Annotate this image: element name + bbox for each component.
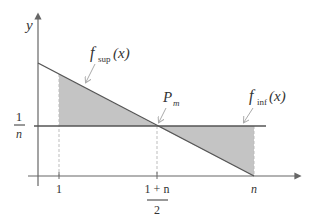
f-inf-pointer	[244, 108, 253, 122]
x-tick-mid-num: 1 + n	[145, 182, 170, 196]
y-axis-label: y	[24, 17, 33, 33]
f-sup-pointer	[86, 64, 95, 82]
diagram-canvas: y 1 n 1 1 + n 2 n f sup (x) P m f inf (x…	[0, 0, 313, 223]
svg-text:(x): (x)	[269, 88, 286, 105]
svg-text:m: m	[173, 98, 180, 108]
y-tick-num: 1	[16, 109, 23, 124]
x-tick-mid-den: 2	[154, 203, 160, 217]
y-tick-den: n	[16, 127, 22, 141]
svg-text:(x): (x)	[113, 45, 130, 62]
svg-text:sup: sup	[98, 54, 111, 64]
svg-text:f: f	[249, 87, 256, 105]
x-tick-n: n	[251, 182, 257, 196]
svg-text:f: f	[90, 44, 97, 62]
svg-text:inf: inf	[257, 97, 267, 107]
svg-text:P: P	[162, 89, 172, 105]
pm-pointer	[159, 108, 166, 122]
f-sup-label: f sup (x)	[90, 44, 130, 64]
pm-label: P m	[162, 89, 180, 108]
x-tick-1: 1	[56, 182, 62, 196]
f-inf-label: f inf (x)	[249, 87, 286, 107]
